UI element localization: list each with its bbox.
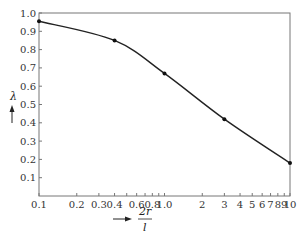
y-axis-label: λ — [9, 90, 17, 103]
x-tick-label: 3 — [221, 199, 227, 210]
x-tick-label: 8 — [275, 199, 281, 210]
svg-text:2r: 2r — [138, 205, 152, 218]
plot-frame — [39, 13, 290, 196]
data-curve — [39, 21, 290, 163]
x-tick-label: 1.0 — [157, 199, 173, 210]
y-tick-label: 0.4 — [20, 117, 36, 128]
x-axis-label: 2r l — [138, 205, 152, 234]
y-tick-label: 0.9 — [20, 26, 36, 37]
y-axis-arrow-icon — [10, 105, 15, 123]
data-point — [113, 38, 117, 42]
y-tick-label: 0.6 — [20, 81, 36, 92]
y-tick-label: 0.7 — [20, 62, 36, 73]
data-point — [37, 19, 41, 23]
y-tick-label: 0.8 — [20, 44, 36, 55]
y-tick-label: 1.0 — [20, 8, 36, 19]
x-tick-label: 0.1 — [31, 199, 47, 210]
x-tick-label: 10 — [284, 199, 297, 210]
x-tick-label: 4 — [237, 199, 243, 210]
y-tick-label: 0.5 — [20, 99, 36, 110]
data-point — [288, 161, 292, 165]
x-axis-arrow-icon — [113, 217, 132, 222]
x-tick-label: 0.4 — [107, 199, 123, 210]
x-tick-label: 7 — [267, 199, 273, 210]
x-tick-label: 5 — [249, 199, 255, 210]
data-point — [222, 117, 226, 121]
x-tick-label: 2 — [199, 199, 205, 210]
y-tick-label: 0.1 — [20, 172, 36, 183]
x-tick-label: 0.2 — [69, 199, 85, 210]
svg-text:l: l — [143, 221, 147, 234]
x-tick-label: 6 — [259, 199, 265, 210]
y-tick-label: 0.3 — [20, 136, 36, 147]
x-tick-label: 0.3 — [91, 199, 107, 210]
data-point — [163, 71, 167, 75]
data-markers — [37, 19, 292, 165]
y-tick-label: 0.2 — [20, 154, 36, 165]
chart: 0.10.20.30.40.50.60.70.80.91.0 0.10.20.3… — [0, 0, 308, 239]
